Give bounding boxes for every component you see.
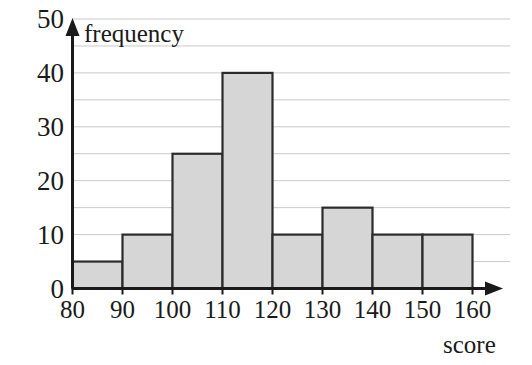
histogram-bar xyxy=(323,208,373,289)
x-axis-arrow-icon xyxy=(485,282,503,296)
y-axis-tick-label: 30 xyxy=(14,113,64,140)
y-axis-tick-label: 50 xyxy=(14,6,64,33)
x-axis-tick-label: 150 xyxy=(404,297,442,322)
y-axis-tick-label: 20 xyxy=(14,167,64,194)
x-axis-title: score xyxy=(443,332,496,357)
x-axis-tick-label: 130 xyxy=(304,297,342,322)
y-axis-tick-label: 40 xyxy=(14,59,64,86)
histogram-bar xyxy=(173,154,223,289)
histogram-bar xyxy=(373,235,423,289)
x-axis-tick-label: 110 xyxy=(204,297,241,322)
histogram-bar xyxy=(73,262,123,289)
histogram-bar xyxy=(423,235,473,289)
x-axis-tick-label: 100 xyxy=(154,297,192,322)
x-axis-tick-label: 140 xyxy=(354,297,392,322)
x-axis-tick-label: 120 xyxy=(254,297,292,322)
y-axis-arrow-icon xyxy=(66,18,80,36)
y-axis-tick-label: 10 xyxy=(14,221,64,248)
y-axis-tick-label: 0 xyxy=(14,275,64,302)
histogram-chart: 01020304050 8090100110120130140150160 fr… xyxy=(0,0,532,365)
histogram-bar xyxy=(123,235,173,289)
x-axis-tick-label: 90 xyxy=(110,297,135,322)
gridlines xyxy=(73,19,511,262)
histogram-bar xyxy=(273,235,323,289)
y-axis-title: frequency xyxy=(84,21,184,46)
x-axis-tick-label: 160 xyxy=(454,297,492,322)
histogram-bar xyxy=(223,73,273,289)
x-axis-tick-label: 80 xyxy=(60,297,85,322)
